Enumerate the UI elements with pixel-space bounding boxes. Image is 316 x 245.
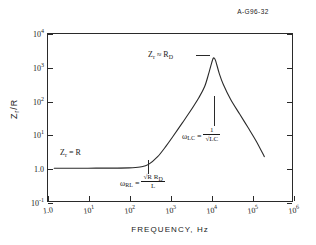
y-axis-tick-right bbox=[287, 169, 292, 170]
y-axis-tick-right bbox=[287, 203, 292, 204]
x-axis-tick-label: 101 bbox=[83, 205, 95, 215]
annotation-omega-rl-numerator-sub: D bbox=[158, 176, 162, 182]
annotation-zr-approx-rd: Zr ≈ RD bbox=[148, 50, 173, 59]
x-axis-tick-bottom bbox=[294, 196, 295, 201]
y-axis-tick-left bbox=[48, 169, 53, 170]
x-axis-tick-bottom bbox=[171, 196, 172, 201]
y-axis-title: Zr/R bbox=[9, 79, 19, 139]
annotation-zr-equals-r-rest: = R bbox=[69, 148, 81, 157]
annotation-zr-approx-rd-sub: r bbox=[153, 54, 155, 60]
y-axis-tick-label: 103 bbox=[33, 63, 44, 72]
figure-id-label: A-G96-32 bbox=[213, 8, 293, 15]
annotation-omega-rl-equals: = bbox=[135, 179, 140, 188]
annotation-zr-approx-rd-rest: ≈ R bbox=[157, 50, 169, 59]
y-axis-tick-right bbox=[287, 68, 292, 69]
x-axis-tick-label: 102 bbox=[124, 205, 136, 215]
y-axis-tick-label: 1.0 bbox=[34, 165, 44, 174]
annotation-omega-lc-equals: = bbox=[197, 132, 202, 141]
y-axis-title-sub: r bbox=[13, 110, 20, 113]
annotation-omega-lc-sub: LC bbox=[187, 135, 195, 141]
annotation-omega-lc: ωLC = 1 √LC bbox=[182, 128, 220, 144]
annotation-omega-rl-numerator-text: √R R bbox=[143, 173, 158, 181]
y-axis-tick-left bbox=[48, 203, 53, 204]
y-axis-tick-label: 102 bbox=[33, 97, 44, 106]
annotation-omega-rl: ωRL = √R RD L bbox=[120, 175, 165, 191]
leader-line-omega-lc bbox=[214, 96, 215, 126]
x-axis-tick-label: 104 bbox=[206, 205, 218, 215]
annotation-omega-rl-sub: RL bbox=[125, 182, 133, 188]
y-axis-tick-label: 101 bbox=[33, 131, 44, 140]
annotation-omega-rl-numerator: √R RD bbox=[141, 174, 164, 182]
x-axis-title: FREQUENCY, Hz bbox=[47, 225, 293, 234]
leader-line-peak bbox=[196, 55, 210, 56]
y-axis-title-main: Z bbox=[9, 113, 19, 119]
figure-container: A-G96-32 1041031021011.010-11.0101102103… bbox=[0, 0, 316, 245]
y-axis-tick-left bbox=[48, 34, 53, 35]
y-axis-tick-left bbox=[48, 135, 53, 136]
x-axis-tick-label: 103 bbox=[165, 205, 177, 215]
y-axis-tick-left bbox=[48, 68, 53, 69]
annotation-omega-lc-numerator: 1 bbox=[203, 127, 220, 135]
x-axis-tick-label: 106 bbox=[288, 205, 300, 215]
x-axis-tick-bottom bbox=[130, 196, 131, 201]
annotation-omega-lc-denominator: √LC bbox=[203, 135, 220, 143]
x-axis-tick-bottom bbox=[253, 196, 254, 201]
x-axis-tick-bottom bbox=[89, 196, 90, 201]
annotation-omega-rl-fraction: √R RD L bbox=[141, 174, 164, 190]
x-axis-tick-bottom bbox=[48, 196, 49, 201]
y-axis-tick-label: 104 bbox=[33, 30, 44, 39]
annotation-zr-equals-r-sub: r bbox=[65, 152, 67, 158]
y-axis-tick-right bbox=[287, 135, 292, 136]
annotation-omega-lc-fraction: 1 √LC bbox=[203, 127, 220, 143]
x-axis-tick-label: 105 bbox=[247, 205, 259, 215]
y-axis-title-tail: /R bbox=[9, 99, 19, 110]
y-axis-tick-right bbox=[287, 102, 292, 103]
leader-line-omega-rl bbox=[148, 160, 149, 174]
y-axis-tick-left bbox=[48, 102, 53, 103]
annotation-zr-equals-r: Zr = R bbox=[60, 148, 81, 157]
x-axis-tick-bottom bbox=[212, 196, 213, 201]
annotation-omega-rl-denominator: L bbox=[141, 182, 164, 190]
annotation-zr-approx-rd-rest-sub: D bbox=[169, 54, 173, 60]
y-axis-tick-right bbox=[287, 34, 292, 35]
x-axis-tick-label: 1.0 bbox=[42, 205, 53, 215]
